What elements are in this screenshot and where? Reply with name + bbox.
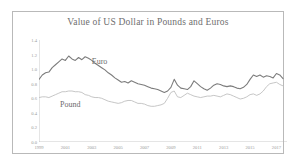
x-tick-label: 2011: [193, 145, 202, 150]
axis-lines: [39, 40, 287, 142]
plot-area: [39, 40, 287, 142]
y-axis-tick-labels: 0.00.20.40.60.81.01.21.4: [23, 40, 37, 142]
x-tick-label: 2015: [245, 145, 254, 150]
series-label-euro: Euro: [92, 57, 108, 66]
y-tick-label: 0.8: [31, 81, 37, 86]
y-tick-label: 0.0: [31, 140, 37, 145]
series-line-euro: [39, 56, 283, 92]
y-tick-label: 1.0: [31, 67, 37, 72]
y-tick-label: 1.2: [31, 52, 37, 57]
x-tick-label: 2009: [166, 145, 175, 150]
x-tick-label: 2003: [87, 145, 96, 150]
x-tick-label: 1999: [34, 145, 43, 150]
x-tick-label: 2007: [140, 145, 149, 150]
y-tick-label: 0.4: [31, 110, 37, 115]
y-tick-label: 1.4: [31, 38, 37, 43]
series-label-pound: Pound: [60, 100, 80, 109]
chart-frame: Value of US Dollar in Pounds and Euros 0…: [12, 11, 284, 154]
x-tick-label: 2017: [272, 145, 281, 150]
x-axis-tick-labels: 1999200120032005200720092011201320152017: [39, 145, 287, 155]
x-tick-label: 2013: [219, 145, 228, 150]
chart-title: Value of US Dollar in Pounds and Euros: [13, 17, 283, 27]
y-tick-label: 0.6: [31, 96, 37, 101]
y-tick-label: 0.2: [31, 125, 37, 130]
x-tick-label: 2001: [61, 145, 70, 150]
chart-svg: [39, 40, 287, 142]
x-tick-label: 2005: [114, 145, 123, 150]
